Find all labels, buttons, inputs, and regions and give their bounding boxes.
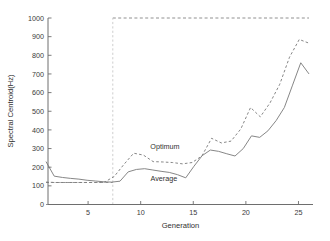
y-axis-title: Spectral Centroid(Hz) [6, 74, 15, 147]
y-tick-label: 700 [32, 70, 44, 79]
spectral-centroid-line-chart: 01002003004005006007008009001000 5101520… [0, 0, 330, 241]
y-tick-label: 900 [32, 32, 44, 41]
y-tick-label: 600 [32, 88, 44, 97]
x-tick-label: 15 [189, 208, 197, 217]
x-tick-label: 20 [242, 208, 250, 217]
y-tick-label: 400 [32, 126, 44, 135]
y-tick-label: 0 [40, 200, 44, 209]
y-tick-label: 1000 [28, 14, 44, 23]
y-tick-label: 100 [32, 181, 44, 190]
annotation-average: Average [151, 174, 178, 183]
x-tick-label: 5 [86, 208, 90, 217]
x-tick-label: 25 [294, 208, 302, 217]
x-axis-title: Generation [162, 221, 200, 230]
y-tick-label: 500 [32, 107, 44, 116]
y-tick-label: 300 [32, 144, 44, 153]
x-tick-label: 10 [137, 208, 145, 217]
annotation-optimum: Optimum [150, 142, 179, 151]
chart-figure: 01002003004005006007008009001000 5101520… [0, 0, 330, 241]
y-tick-label: 200 [32, 163, 44, 172]
y-tick-label: 800 [32, 51, 44, 60]
